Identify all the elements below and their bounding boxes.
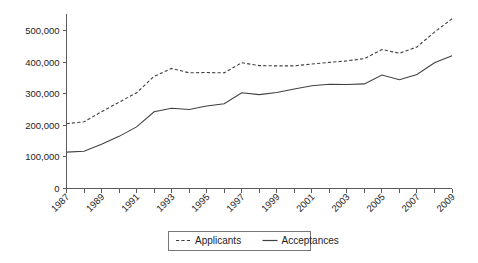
y-tick-label: 400,000 <box>25 57 59 68</box>
x-tick-label: 1993 <box>154 191 177 214</box>
series-acceptances <box>67 56 453 152</box>
x-tick-label: 1995 <box>189 191 212 214</box>
series-lines <box>67 19 453 152</box>
x-tick-label: 1987 <box>49 191 72 214</box>
legend-label-acceptances: Acceptances <box>282 235 339 246</box>
x-tick-label: 1989 <box>84 191 107 214</box>
x-tick-label: 1991 <box>119 191 142 214</box>
x-tick-label: 2003 <box>329 191 352 214</box>
chart-svg: 0100,000200,000300,000400,000500,000 198… <box>0 0 478 263</box>
legend-label-applicants: Applicants <box>195 235 241 246</box>
y-tick-label: 500,000 <box>25 25 59 36</box>
chart-legend: ApplicantsAcceptances <box>168 231 339 250</box>
y-tick-label: 200,000 <box>25 120 59 131</box>
line-chart: 0100,000200,000300,000400,000500,000 198… <box>0 0 478 263</box>
y-tick-label: 300,000 <box>25 88 59 99</box>
x-tick-label: 2005 <box>364 191 387 214</box>
y-axis: 0100,000200,000300,000400,000500,000 <box>25 14 66 194</box>
series-applicants <box>67 19 453 124</box>
y-tick-label: 0 <box>54 183 59 194</box>
x-tick-label: 2007 <box>399 191 422 214</box>
y-tick-label: 100,000 <box>25 151 59 162</box>
x-axis: 1987198919911993199519971999200120032005… <box>49 189 457 214</box>
x-tick-label: 2009 <box>434 191 457 214</box>
x-tick-label: 1997 <box>224 191 247 214</box>
x-tick-label: 2001 <box>294 191 317 214</box>
x-tick-label: 1999 <box>259 191 282 214</box>
